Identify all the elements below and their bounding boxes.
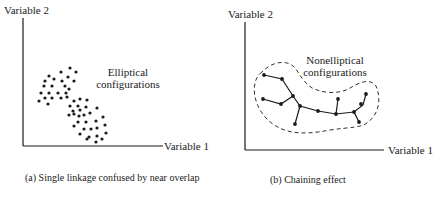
panel-b-x-axis-label: Variable 1: [388, 145, 433, 156]
figure-canvas: [0, 0, 434, 197]
panel-b-annotation-line1: Nonelliptical: [300, 54, 370, 66]
panel-b-y-axis-label: Variable 2: [228, 9, 273, 20]
panel-a-caption: (a) Single linkage confused by near over…: [25, 173, 199, 183]
panel-b-caption: (b) Chaining effect: [270, 175, 346, 185]
panel-a-x-axis-label: Variable 1: [164, 141, 209, 152]
panel-a-y-axis-label: Variable 2: [4, 5, 49, 16]
panel-a-annotation: Elliptical configurations: [96, 66, 160, 90]
panel-a-annotation-line2: configurations: [96, 78, 160, 90]
panel-b-axes: [245, 22, 384, 150]
panel-a-annotation-line1: Elliptical: [96, 66, 160, 78]
panel-b-annotation-line2: configurations: [300, 66, 370, 78]
panel-b-chain-points: [261, 73, 368, 126]
panel-b-chain-links: [263, 75, 366, 124]
panel-b-annotation: Nonelliptical configurations: [300, 54, 370, 78]
